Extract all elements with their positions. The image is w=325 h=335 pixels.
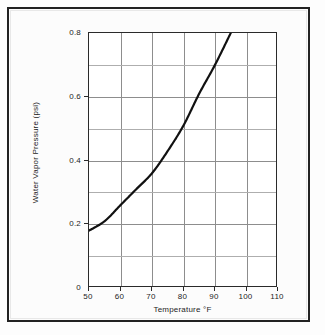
y-tick-label-0.2: 0.2 (69, 219, 81, 228)
x-tick-label-80: 80 (178, 292, 187, 301)
y-tick-label-0.6: 0.6 (69, 91, 81, 100)
y-tick-label-0.4: 0.4 (69, 155, 81, 164)
y-tick-label-0.8: 0.8 (69, 28, 81, 37)
x-tick-label-50: 50 (83, 292, 92, 301)
x-tick-label-100: 100 (239, 292, 253, 301)
figure: 0.8 0.6 0.4 0.2 0 50 60 70 80 90 100 110… (0, 0, 325, 335)
x-tick-label-70: 70 (146, 292, 155, 301)
y-tick-label-0: 0 (76, 283, 81, 292)
x-tick-label-90: 90 (209, 292, 218, 301)
x-tick-label-60: 60 (115, 292, 124, 301)
x-tick-label-110: 110 (270, 292, 283, 301)
x-axis-title: Temperature °F (88, 305, 277, 314)
y-axis-title: Water Vapor Pressure (psi) (31, 88, 40, 218)
plot-area (88, 32, 277, 287)
data-curve (89, 33, 278, 288)
